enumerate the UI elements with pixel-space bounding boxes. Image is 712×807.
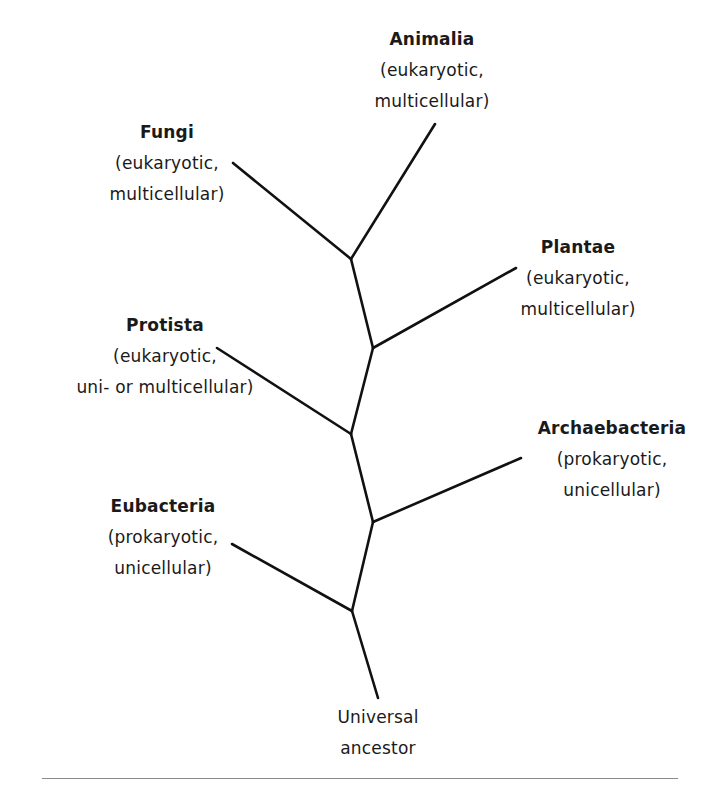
kingdom-cell-type: (prokaryotic, bbox=[108, 522, 219, 553]
kingdom-cellularity: multicellular) bbox=[520, 294, 635, 325]
kingdom-name: Eubacteria bbox=[108, 491, 219, 522]
kingdom-cell-type: (eukaryotic, bbox=[374, 55, 489, 86]
bottom-divider bbox=[42, 778, 678, 779]
kingdom-name: Archaebacteria bbox=[538, 413, 687, 444]
kingdom-cellularity: uni- or multicellular) bbox=[76, 372, 253, 403]
kingdom-cellularity: unicellular) bbox=[538, 475, 687, 506]
kingdom-name: Fungi bbox=[109, 117, 224, 148]
kingdom-name: Protista bbox=[76, 310, 253, 341]
branch-node-2-to-node-3 bbox=[351, 434, 373, 522]
kingdom-cellularity: multicellular) bbox=[374, 86, 489, 117]
branch-root-to-node-1 bbox=[352, 611, 378, 698]
kingdom-name: Plantae bbox=[520, 232, 635, 263]
kingdom-cellularity: multicellular) bbox=[109, 179, 224, 210]
label-eubacteria: Eubacteria (prokaryotic, unicellular) bbox=[108, 491, 219, 584]
phylogenetic-tree bbox=[0, 0, 712, 807]
branch-plantae bbox=[373, 268, 516, 348]
kingdom-name: Animalia bbox=[374, 24, 489, 55]
root-name: Universal bbox=[337, 702, 418, 733]
branch-animalia bbox=[351, 124, 435, 259]
kingdom-cell-type: (eukaryotic, bbox=[109, 148, 224, 179]
label-universal-ancestor: Universal ancestor bbox=[337, 702, 418, 764]
branch-eubacteria bbox=[232, 544, 352, 611]
branch-archaebacteria bbox=[373, 458, 521, 522]
root-desc: ancestor bbox=[337, 733, 418, 764]
kingdom-cell-type: (eukaryotic, bbox=[520, 263, 635, 294]
branch-node-3-to-node-4 bbox=[351, 348, 373, 434]
branch-node-4-to-node-5 bbox=[351, 259, 373, 348]
label-animalia: Animalia (eukaryotic, multicellular) bbox=[374, 24, 489, 117]
label-plantae: Plantae (eukaryotic, multicellular) bbox=[520, 232, 635, 325]
label-fungi: Fungi (eukaryotic, multicellular) bbox=[109, 117, 224, 210]
kingdom-cellularity: unicellular) bbox=[108, 553, 219, 584]
branch-node-1-to-node-2 bbox=[352, 522, 373, 611]
kingdom-cell-type: (eukaryotic, bbox=[76, 341, 253, 372]
label-protista: Protista (eukaryotic, uni- or multicellu… bbox=[76, 310, 253, 403]
label-archaebacteria: Archaebacteria (prokaryotic, unicellular… bbox=[538, 413, 687, 506]
kingdom-cell-type: (prokaryotic, bbox=[538, 444, 687, 475]
branch-fungi bbox=[233, 163, 351, 259]
